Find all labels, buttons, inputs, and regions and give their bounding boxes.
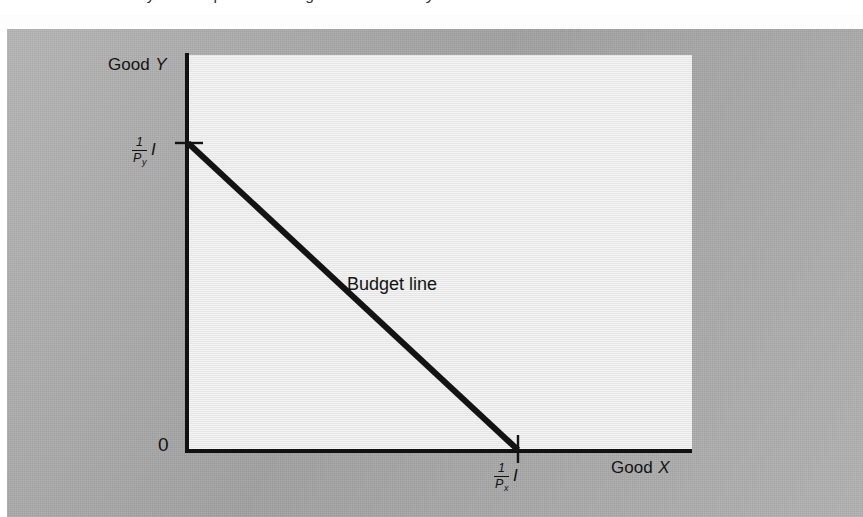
budget-line-figure: Good Y Good X 0 Budget line 1 Py I 1 Px … [7, 29, 863, 517]
y-axis-title-variable: Y [154, 55, 166, 74]
y-intercept-numerator: 1 [133, 136, 146, 150]
budget-line-segment [188, 143, 518, 450]
page-caption-strip: the consumer can buy. The slope of the b… [0, 0, 863, 14]
y-intercept-denominator-sub: y [142, 157, 147, 167]
x-axis-title: Good X [611, 458, 670, 478]
y-intercept-denominator: Py [133, 151, 146, 165]
x-intercept-denominator: Px [495, 477, 508, 491]
x-intercept-numerator: 1 [495, 462, 508, 476]
x-axis-title-variable: X [657, 458, 669, 477]
origin-label: 0 [158, 434, 169, 456]
x-intercept-multiplier: I [513, 466, 518, 486]
budget-line-label: Budget line [347, 274, 437, 295]
y-intercept-label: 1 Py I [132, 136, 156, 165]
x-intercept-fraction: 1 Px [494, 462, 509, 491]
budget-line-svg [7, 29, 863, 517]
caption-text: the consumer can buy. The slope of the b… [0, 0, 863, 4]
x-intercept-label: 1 Px I [494, 462, 518, 491]
y-intercept-fraction: 1 Py [132, 136, 147, 165]
caption-text-content: the consumer can buy. The slope of the b… [0, 0, 395, 3]
x-intercept-denominator-sub: x [504, 483, 509, 493]
y-axis-title: Good Y [108, 55, 167, 75]
y-intercept-multiplier: I [151, 140, 156, 160]
